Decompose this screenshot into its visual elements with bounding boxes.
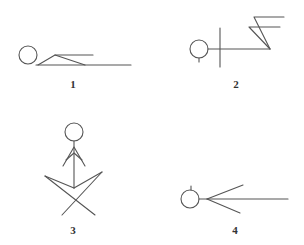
figure-2-label: 2: [233, 78, 239, 90]
figure-4-head: [181, 190, 199, 208]
figure-1: 1: [19, 46, 131, 90]
posture-diagram: 1 2 3 4: [0, 0, 304, 245]
figure-2: 2: [190, 17, 284, 90]
figure-2-head: [190, 40, 208, 58]
figure-1-legs: [38, 55, 85, 65]
figure-3-head: [65, 123, 83, 141]
figure-3-right-thigh: [74, 172, 102, 188]
figure-2-leg-upper: [254, 17, 284, 49]
figure-1-head: [19, 46, 37, 64]
figure-3-left-shin: [45, 176, 95, 215]
figure-4-lower-leg: [207, 199, 240, 213]
figure-3-label: 3: [70, 224, 76, 236]
figure-3: 3: [45, 123, 102, 236]
figure-3-left-thigh: [45, 176, 74, 188]
figure-4: 4: [181, 185, 288, 236]
figure-1-label: 1: [70, 78, 76, 90]
figure-4-label: 4: [232, 224, 238, 236]
figure-4-upper-leg: [207, 185, 243, 199]
